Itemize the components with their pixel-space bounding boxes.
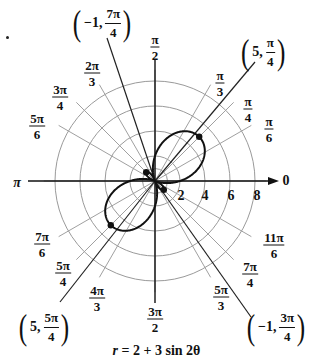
grid-spoke <box>155 125 251 181</box>
point-theta-den: 4 <box>267 53 274 70</box>
angle-label-pi4: π4 <box>243 95 252 124</box>
angle-label-2pi3: 2π3 <box>84 59 100 88</box>
angle-label-4pi3: 4π3 <box>89 284 105 313</box>
point-theta-den: 4 <box>284 328 291 345</box>
angle-label-3pi4: 3π4 <box>52 83 68 112</box>
angle-denominator: 6 <box>271 246 278 260</box>
grid-spoke <box>99 181 155 277</box>
angle-denominator: 6 <box>34 127 41 141</box>
point-theta-den: 4 <box>110 24 117 41</box>
point-r: −1, <box>258 319 276 335</box>
angle-denominator: 6 <box>266 130 273 144</box>
point-theta-num: 5π <box>43 310 59 328</box>
radial-tick-2: 2 <box>178 188 185 204</box>
angle-denominator: 6 <box>39 245 46 259</box>
grid-spoke <box>155 181 234 260</box>
angle-numerator: 7π <box>34 230 50 245</box>
grid-spoke <box>76 102 155 181</box>
arrow-head-icon <box>268 177 279 185</box>
point-theta-num: 7π <box>105 6 121 24</box>
angle-numerator: 3π <box>52 83 68 98</box>
angle-numerator: 5π <box>29 112 45 127</box>
angle-denominator: 3 <box>218 298 225 312</box>
angle-label-pi3: π3 <box>215 69 224 98</box>
point-dot <box>161 187 167 193</box>
angle-label-3pi2: 3π2 <box>147 305 163 334</box>
angle-label-5pi6: 5π6 <box>29 112 45 141</box>
grid-spoke <box>59 125 155 181</box>
point-dot <box>108 222 114 228</box>
angle-numerator: π <box>264 115 273 130</box>
point-r: 5, <box>30 319 41 335</box>
angle-denominator: 4 <box>247 275 254 289</box>
ray-pi-4 <box>155 62 255 181</box>
point-label-p1: (5,π4) <box>239 34 287 70</box>
angle-denominator: 4 <box>60 274 67 288</box>
point-label-p3: (5,5π4) <box>17 309 71 345</box>
angle-denominator: 3 <box>89 74 96 88</box>
angle-numerator: π <box>243 95 252 110</box>
grid-spoke <box>155 102 234 181</box>
point-dot <box>196 134 202 140</box>
axis-zero-label: 0 <box>283 173 290 189</box>
grid-spoke <box>76 181 155 260</box>
angle-denominator: 2 <box>152 320 159 334</box>
angle-label-7pi6: 7π6 <box>34 230 50 259</box>
grid-spoke <box>155 85 211 181</box>
point-label-p4: (−1,3π4) <box>245 309 307 345</box>
axis-pi-label: π <box>13 175 21 191</box>
angle-label-11pi6: 11π6 <box>263 231 284 260</box>
grid-spoke <box>59 181 155 237</box>
angle-numerator: 3π <box>147 305 163 320</box>
radial-tick-4: 4 <box>202 188 209 204</box>
point-theta-den: 4 <box>48 328 55 345</box>
radial-tick-8: 8 <box>254 188 261 204</box>
angle-denominator: 4 <box>57 98 64 112</box>
angle-label-7pi4: 7π4 <box>242 260 258 289</box>
point-theta-num: π <box>266 35 275 53</box>
angle-label-5pi4: 5π4 <box>55 259 71 288</box>
angle-numerator: 11π <box>263 231 284 246</box>
point-theta-num: 3π <box>279 310 295 328</box>
point-r: 5, <box>252 44 263 60</box>
angle-denominator: 3 <box>94 299 101 313</box>
radial-tick-6: 6 <box>228 188 235 204</box>
angle-numerator: 5π <box>213 283 229 298</box>
angle-numerator: π <box>215 69 224 84</box>
point-label-p2: (−1,7π4) <box>71 5 133 41</box>
equation-caption: r = 2 + 3 sin 2θ <box>113 343 201 359</box>
angle-numerator: π <box>150 33 159 48</box>
point-dot <box>143 169 149 175</box>
angle-label-5pi3: 5π3 <box>213 283 229 312</box>
angle-denominator: 4 <box>245 110 252 124</box>
angle-denominator: 3 <box>217 84 224 98</box>
angle-numerator: 7π <box>242 260 258 275</box>
angle-denominator: 2 <box>152 48 159 62</box>
angle-numerator: 2π <box>84 59 100 74</box>
stray-mark <box>6 36 9 39</box>
angle-numerator: 5π <box>55 259 71 274</box>
point-r: −1, <box>84 15 102 31</box>
angle-numerator: 4π <box>89 284 105 299</box>
angle-label-pi2: π2 <box>150 33 159 62</box>
angle-label-pi6: π6 <box>264 115 273 144</box>
